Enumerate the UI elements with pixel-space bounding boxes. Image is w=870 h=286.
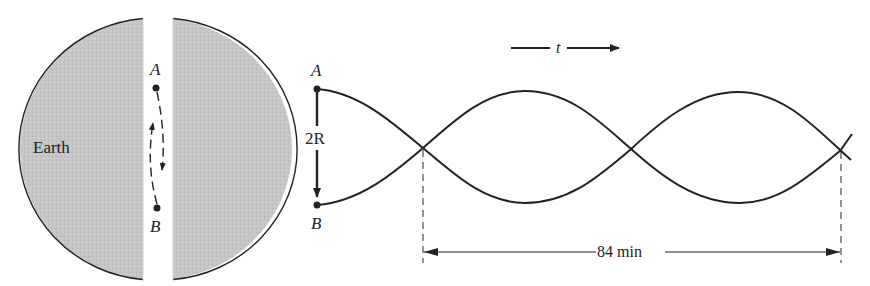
earth-panel: Earth A B (0, 0, 313, 286)
earth-label: Earth (33, 138, 70, 157)
point-b-dot (154, 205, 161, 212)
osc-point-b-label: B (311, 214, 322, 233)
curve-starting-at-b (317, 91, 852, 205)
point-b-label: B (150, 217, 161, 236)
oscillation-panel: t A B 2R 84 min (305, 39, 852, 263)
point-a-label: A (149, 60, 161, 79)
period-label: 84 min (597, 243, 642, 260)
downward-path-arrow (157, 92, 163, 170)
time-axis-label: t (556, 39, 561, 56)
amplitude-label: 2R (305, 129, 326, 148)
period-arrowhead-left (424, 248, 438, 256)
osc-point-a-label: A (310, 61, 322, 80)
point-a-dot (153, 85, 160, 92)
period-arrowhead-right (826, 248, 840, 256)
curve-starting-at-a (317, 89, 851, 203)
upward-path-arrow (150, 123, 157, 204)
tunnel-through-earth-diagram: Earth A B t A B 2R 84 min (0, 0, 870, 286)
